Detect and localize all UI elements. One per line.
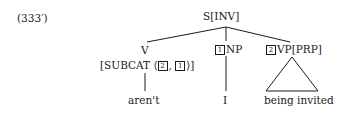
node-vp-prp: 2VP[PRP] bbox=[266, 44, 322, 55]
subcat-separator: , bbox=[169, 59, 172, 71]
node-np: 1NP bbox=[215, 44, 242, 55]
leaf-i: I bbox=[223, 95, 227, 106]
node-v: V bbox=[141, 45, 149, 56]
root-node-s-inv: S[INV] bbox=[203, 11, 239, 22]
subcat-feature: [SUBCAT ⟨2, 1⟩] bbox=[100, 60, 194, 71]
edge-s-vp bbox=[226, 27, 290, 42]
example-number: (333′) bbox=[17, 13, 48, 24]
tag-box-1: 1 bbox=[215, 45, 225, 55]
vp-label: VP[PRP] bbox=[277, 43, 322, 55]
leaf-arent: aren't bbox=[128, 95, 159, 106]
tag-box-2: 2 bbox=[158, 61, 168, 71]
np-label: NP bbox=[226, 43, 242, 55]
leaf-being-invited: being invited bbox=[264, 95, 334, 106]
tag-box-1: 1 bbox=[175, 61, 185, 71]
subcat-prefix: [SUBCAT ⟨ bbox=[100, 59, 158, 71]
tag-box-2: 2 bbox=[266, 45, 276, 55]
vp-triangle bbox=[266, 57, 318, 91]
edge-s-v bbox=[147, 27, 226, 42]
subcat-suffix: ⟩] bbox=[186, 59, 194, 71]
